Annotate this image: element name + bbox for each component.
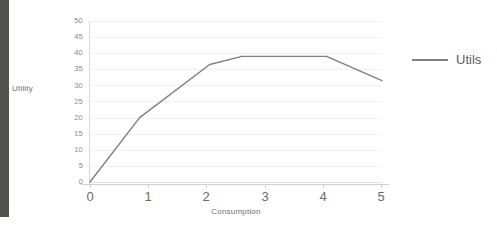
x-axis-title: Consumption xyxy=(90,207,382,217)
series-line-utils xyxy=(90,21,382,182)
line-chart-figure: Utility 50 45 40 35 30 25 20 15 10 5 0 xyxy=(9,0,497,231)
x-axis-line xyxy=(81,184,389,185)
y-tick-label: 15 xyxy=(57,130,83,138)
legend-label: Utils xyxy=(456,52,481,67)
x-tick xyxy=(323,184,324,188)
y-tick-label: 10 xyxy=(57,146,83,154)
x-tick-label: 2 xyxy=(191,189,221,205)
chart-legend: Utils xyxy=(412,52,481,67)
x-tick-label: 1 xyxy=(133,189,163,205)
x-tick-label: 3 xyxy=(250,189,280,205)
y-tick-label: 25 xyxy=(57,98,83,106)
x-tick-label: 4 xyxy=(308,189,338,205)
y-tick-label: 50 xyxy=(57,17,83,25)
x-tick xyxy=(90,184,91,188)
legend-line-swatch xyxy=(412,59,448,61)
x-tick xyxy=(206,184,207,188)
y-tick-label: 5 xyxy=(57,162,83,170)
y-tick-label: 35 xyxy=(57,65,83,73)
y-axis-title: Utility xyxy=(12,84,33,94)
plot-area xyxy=(90,21,382,182)
y-tick-label: 0 xyxy=(57,178,83,186)
gridline-baseline xyxy=(90,182,382,183)
x-tick-label: 5 xyxy=(366,189,396,205)
y-tick-label: 40 xyxy=(57,49,83,57)
y-tick-label: 30 xyxy=(57,82,83,90)
x-tick xyxy=(381,184,382,188)
y-tick-label: 45 xyxy=(57,33,83,41)
window-edge-strip xyxy=(0,0,9,217)
chart-screenshot-root: Utility 50 45 40 35 30 25 20 15 10 5 0 xyxy=(0,0,497,231)
x-tick-label: 0 xyxy=(75,189,105,205)
x-tick xyxy=(265,184,266,188)
y-tick-label: 20 xyxy=(57,114,83,122)
x-tick xyxy=(148,184,149,188)
